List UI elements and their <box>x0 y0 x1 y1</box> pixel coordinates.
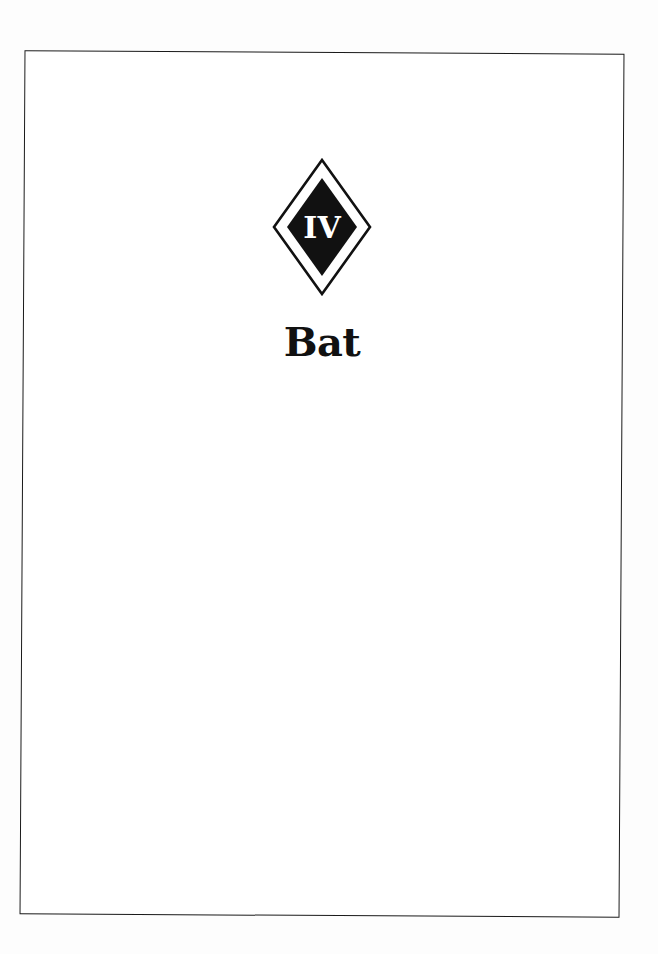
chapter-numeral: IV <box>303 210 341 245</box>
chapter-title: Bat <box>0 318 644 365</box>
diamond-emblem-icon: IV <box>272 158 372 296</box>
chapter-diamond-emblem: IV <box>272 158 372 296</box>
